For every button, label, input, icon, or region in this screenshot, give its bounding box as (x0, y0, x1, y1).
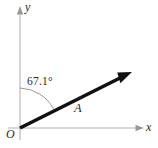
angle-arc (20, 88, 54, 109)
x-axis-arrowhead (136, 125, 145, 131)
vector-arrowhead (117, 72, 132, 83)
figure-canvas (0, 0, 158, 148)
y-axis-label: y (25, 1, 30, 13)
y-axis-arrowhead (17, 6, 23, 15)
origin-label: O (6, 128, 15, 140)
vector-label-text: A (74, 101, 82, 115)
x-axis-label: x (146, 121, 151, 133)
vector-diagram-figure: y x O 67.1° A (0, 0, 158, 148)
vector-label: A (74, 102, 82, 115)
vector-label-stack: A (74, 102, 82, 115)
angle-label: 67.1° (27, 76, 53, 88)
